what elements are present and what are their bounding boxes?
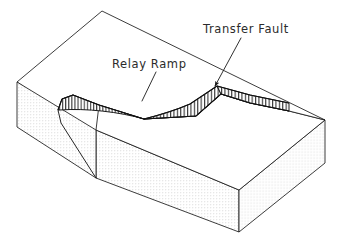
relay-ramp-label: Relay Ramp — [112, 57, 187, 71]
block-diagram-figure: Relay Ramp Transfer Fault — [0, 0, 341, 251]
transfer-fault-label: Transfer Fault — [202, 22, 289, 36]
diagram-canvas: Relay Ramp Transfer Fault — [0, 0, 341, 251]
block-body — [17, 11, 325, 232]
